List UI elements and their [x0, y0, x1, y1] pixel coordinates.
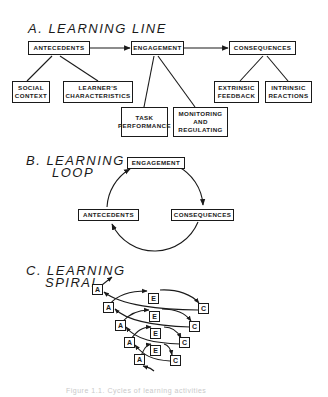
figure-caption: Figure 1.1. Cycles of learning activitie… [66, 387, 266, 394]
spiral-antecedents-3: A [115, 320, 126, 331]
extrinsic-feedback-line2: Feedback [218, 92, 256, 100]
spiral-engagement-3: E [150, 328, 161, 339]
task-performance-line1: Task [136, 114, 154, 122]
task-performance-node: Task Performance [121, 107, 168, 137]
spiral-consequences-1: C [198, 303, 209, 314]
spiral-antecedents-4: A [124, 337, 135, 348]
monitoring-line1: Monitoring [178, 110, 222, 118]
social-context-node: Social Context [12, 81, 50, 103]
spiral-engagement-4: E [150, 345, 161, 356]
spiral-consequences-2: C [189, 321, 200, 332]
intrinsic-reactions-line2: Reactions [268, 92, 308, 100]
social-context-line1: Social [18, 84, 44, 92]
monitoring-regulating-node: Monitoring and Regulating [173, 107, 228, 137]
spiral-engagement-1: E [148, 293, 159, 304]
spiral-consequences-4: C [170, 355, 181, 366]
intrinsic-reactions-node: Intrinsic Reactions [265, 81, 312, 103]
spiral-engagement-2: E [149, 311, 160, 322]
task-performance-line2: Performance [118, 122, 171, 130]
diagram-connectors [0, 0, 328, 397]
intrinsic-reactions-line1: Intrinsic [271, 84, 306, 92]
loop-engagement-node: Engagement [127, 157, 185, 169]
learners-characteristics-line2: Characteristics [65, 92, 130, 100]
spiral-antecedents-5: A [134, 354, 145, 365]
spiral-consequences-3: C [179, 337, 190, 348]
line-engagement-node: Engagement [131, 41, 184, 55]
line-antecedents-node: Antecedents [28, 41, 90, 55]
extrinsic-feedback-line1: Extrinsic [218, 84, 255, 92]
loop-consequences-node: Consequences [171, 209, 234, 221]
social-context-line2: Context [15, 92, 47, 100]
learning-loop-title-line2: LOOP [52, 166, 94, 179]
monitoring-line3: Regulating [178, 126, 222, 134]
extrinsic-feedback-node: Extrinsic Feedback [214, 81, 259, 103]
spiral-antecedents-2: A [103, 302, 114, 313]
learners-characteristics-node: Learner's Characteristics [63, 81, 133, 103]
spiral-antecedents-1: A [92, 284, 103, 295]
loop-antecedents-node: Antecedents [78, 209, 139, 221]
learners-characteristics-line1: Learner's [78, 84, 117, 92]
line-consequences-node: Consequences [229, 41, 296, 55]
learning-line-title: A. LEARNING LINE [28, 22, 167, 35]
monitoring-line2: and [193, 118, 208, 126]
